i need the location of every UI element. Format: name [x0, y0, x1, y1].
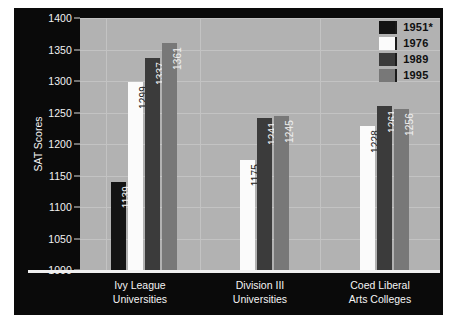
chart-frame: SAT Scores 10001050110011501200125013001…: [14, 8, 443, 315]
x-axis-category-line: Division III: [200, 278, 320, 292]
bar-value-label-wrapper: 1228: [360, 126, 375, 186]
x-axis-category-line: Coed Liberal: [320, 278, 440, 292]
legend-item[interactable]: 1995: [379, 68, 433, 82]
y-axis: 100010501100115012001250130013501400: [28, 18, 80, 270]
x-axis-category-label: Division IIIUniversities: [200, 278, 320, 306]
x-axis-line: [28, 270, 440, 273]
y-axis-tick-label: 1150: [49, 170, 72, 182]
x-axis-category-line: Ivy League: [80, 278, 200, 292]
bar[interactable]: 1256: [394, 109, 409, 270]
legend-color-swatch: [379, 69, 397, 82]
legend-item-label: 1995: [403, 69, 428, 81]
legend-item-label: 1976: [403, 37, 428, 49]
y-axis-tick-label: 1300: [48, 75, 72, 87]
x-axis: Ivy LeagueUniversitiesDivision IIIUniver…: [80, 274, 440, 316]
legend-item[interactable]: 1976: [379, 36, 433, 50]
legend-color-swatch: [379, 37, 397, 50]
y-axis-tick-label: 1350: [48, 44, 72, 56]
legend-item[interactable]: 1951*: [379, 20, 433, 34]
legend-color-swatch: [379, 53, 397, 66]
bar-value-label-wrapper: 1256: [394, 109, 409, 169]
chart-legend: 1951*197619891995: [379, 20, 433, 82]
bar-value-label: 1256: [404, 113, 415, 136]
x-axis-category-label: Coed LiberalArts Colleges: [320, 278, 440, 306]
bar[interactable]: 1261: [377, 106, 392, 270]
bar-value-label-wrapper: 1261: [377, 106, 392, 166]
x-axis-category-label: Ivy LeagueUniversities: [80, 278, 200, 306]
bar[interactable]: 1228: [360, 126, 375, 270]
y-axis-tick-label: 1050: [48, 233, 72, 245]
x-axis-category-line: Universities: [200, 292, 320, 306]
y-axis-tick-label: 1200: [48, 138, 72, 150]
legend-item[interactable]: 1989: [379, 52, 433, 66]
y-axis-tick-label: 1250: [48, 107, 72, 119]
y-axis-tick-label: 1100: [49, 201, 72, 213]
y-axis-tick-label: 1400: [48, 12, 72, 24]
legend-item-label: 1951*: [403, 21, 433, 33]
legend-item-label: 1989: [403, 53, 428, 65]
x-axis-category-line: Universities: [80, 292, 200, 306]
legend-color-swatch: [379, 21, 397, 34]
x-axis-category-line: Arts Colleges: [320, 292, 440, 306]
